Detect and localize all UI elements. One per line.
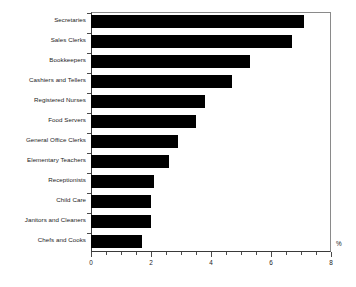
- x-axis-minor-tick: [136, 252, 137, 255]
- bar: [91, 35, 292, 48]
- bar: [91, 175, 154, 188]
- category-axis-labels: SecretariesSales ClerksBookkeepersCashie…: [0, 12, 89, 253]
- bar: [91, 95, 205, 108]
- x-axis-major-tick: [91, 252, 92, 257]
- bars-layer: [91, 12, 332, 253]
- y-axis-tick: [87, 93, 91, 94]
- x-axis-tick-label: 8: [329, 258, 333, 267]
- bar: [91, 215, 151, 228]
- y-axis-tick: [87, 113, 91, 114]
- x-axis-tick-label: 4: [209, 258, 213, 267]
- x-axis-tick-label: 0: [89, 258, 93, 267]
- category-label: Child Care: [0, 196, 89, 204]
- x-axis-minor-tick: [196, 252, 197, 255]
- y-axis-tick: [87, 233, 91, 234]
- category-label: General Office Clerks: [0, 136, 89, 144]
- x-axis-major-tick: [331, 252, 332, 257]
- bar: [91, 155, 169, 168]
- x-axis-unit-label: %: [336, 239, 342, 248]
- x-axis-minor-tick: [226, 252, 227, 255]
- category-label: Registered Nurses: [0, 96, 89, 104]
- category-label: Bookkeepers: [0, 56, 89, 64]
- bar: [91, 55, 250, 68]
- bar: [91, 235, 142, 248]
- bar: [91, 115, 196, 128]
- y-axis-tick: [87, 13, 91, 14]
- category-label: Receptionists: [0, 176, 89, 184]
- bar: [91, 135, 178, 148]
- y-axis-tick: [87, 33, 91, 34]
- x-axis-tick-label: 2: [149, 258, 153, 267]
- y-axis-tick: [87, 133, 91, 134]
- x-axis-tick-label: 6: [269, 258, 273, 267]
- y-axis-tick: [87, 153, 91, 154]
- category-label: Janitors and Cleaners: [0, 216, 89, 224]
- y-axis-tick: [87, 73, 91, 74]
- x-axis-minor-tick: [106, 252, 107, 255]
- x-axis-minor-tick: [286, 252, 287, 255]
- x-axis-major-tick: [151, 252, 152, 257]
- x-axis-minor-tick: [256, 252, 257, 255]
- y-axis-tick: [87, 173, 91, 174]
- x-axis-minor-tick: [316, 252, 317, 255]
- x-axis-minor-tick: [301, 252, 302, 255]
- bar: [91, 15, 304, 28]
- y-axis-tick: [87, 213, 91, 214]
- y-axis-tick: [87, 53, 91, 54]
- x-axis-tick-labels: 02468: [91, 258, 332, 270]
- x-axis-minor-tick: [241, 252, 242, 255]
- category-label: Sales Clerks: [0, 36, 89, 44]
- bar: [91, 75, 232, 88]
- x-axis-major-tick: [211, 252, 212, 257]
- category-label: Chefs and Cooks: [0, 236, 89, 244]
- x-axis-minor-tick: [121, 252, 122, 255]
- category-label: Food Servers: [0, 116, 89, 124]
- x-axis-minor-tick: [166, 252, 167, 255]
- x-axis-minor-tick: [181, 252, 182, 255]
- category-label: Cashiers and Tellers: [0, 76, 89, 84]
- bar-chart: SecretariesSales ClerksBookkeepersCashie…: [0, 0, 356, 287]
- bar: [91, 195, 151, 208]
- x-axis-major-tick: [271, 252, 272, 257]
- category-label: Secretaries: [0, 16, 89, 24]
- category-label: Elementary Teachers: [0, 156, 89, 164]
- y-axis-tick: [87, 193, 91, 194]
